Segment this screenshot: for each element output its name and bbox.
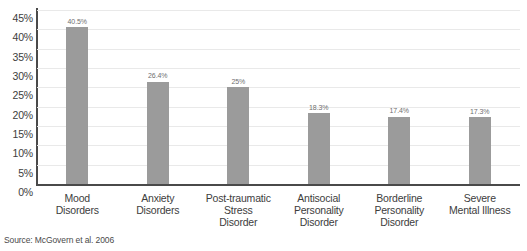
bar[interactable] <box>469 117 491 184</box>
y-tick-label: 15% <box>13 129 33 140</box>
category-label-line: Personality <box>359 204 440 216</box>
y-tick-label: 35% <box>13 51 33 62</box>
bar[interactable] <box>147 82 169 184</box>
x-axis-category-label: MoodDisorders <box>37 192 118 216</box>
y-tick-label: 30% <box>13 71 33 82</box>
category-label-line: Post-traumatic <box>198 192 279 204</box>
x-axis-line <box>36 184 520 186</box>
y-axis-tick-labels: 0%5%10%15%20%25%30%35%40%45% <box>0 18 33 184</box>
category-label-line: Severe <box>440 192 521 204</box>
bar-slot: 26.4% <box>118 10 199 184</box>
bar-slot: 17.3% <box>440 10 521 184</box>
y-tick-label: 20% <box>13 109 33 120</box>
bar-value-label: 25% <box>231 78 245 85</box>
category-label-line: Mood <box>37 192 118 204</box>
y-tick-label: 40% <box>13 32 33 43</box>
category-label-line: Anxiety <box>118 192 199 204</box>
bar-slot: 25% <box>198 10 279 184</box>
x-axis-category-labels: MoodDisordersAnxietyDisordersPost-trauma… <box>37 192 520 238</box>
x-axis-category-label: Post-traumaticStressDisorder <box>198 192 279 229</box>
y-tick-label: 10% <box>13 148 33 159</box>
bar-slot: 18.3% <box>279 10 360 184</box>
bar-value-label: 17.3% <box>470 108 489 115</box>
x-axis-category-label: AntisocialPersonalityDisorder <box>279 192 360 229</box>
category-label-line: Antisocial <box>279 192 360 204</box>
bar-value-label: 26.4% <box>148 72 167 79</box>
bar-slot: 40.5% <box>37 10 118 184</box>
bar-slot: 17.4% <box>359 10 440 184</box>
category-label-line: Disorders <box>118 204 199 216</box>
bar[interactable] <box>66 27 88 184</box>
bar[interactable] <box>388 117 410 184</box>
category-label-line: Disorder <box>279 216 360 228</box>
category-label-line: Stress <box>198 204 279 216</box>
x-axis-category-label: SevereMental Illness <box>440 192 521 216</box>
bar-value-label: 18.3% <box>309 104 328 111</box>
category-label-line: Personality <box>279 204 360 216</box>
y-tick-label: 0% <box>18 187 33 198</box>
bar[interactable] <box>227 87 249 184</box>
category-label-line: Disorder <box>198 216 279 228</box>
y-tick-label: 25% <box>13 90 33 101</box>
bar-series: 40.5%26.4%25%18.3%17.4%17.3% <box>37 10 520 184</box>
source-note: Source: McGovern et al. 2006 <box>4 236 114 245</box>
category-label-line: Borderline <box>359 192 440 204</box>
x-axis-category-label: BorderlinePersonalityDisorder <box>359 192 440 229</box>
bar[interactable] <box>308 113 330 184</box>
category-label-line: Disorders <box>37 204 118 216</box>
bar-chart-figure: 0%5%10%15%20%25%30%35%40%45% 40.5%26.4%2… <box>0 0 527 251</box>
bar-value-label: 40.5% <box>68 18 87 25</box>
category-label-line: Disorder <box>359 216 440 228</box>
y-tick-label: 5% <box>18 167 33 178</box>
x-axis-category-label: AnxietyDisorders <box>118 192 199 216</box>
y-tick-label: 45% <box>13 13 33 24</box>
bar-value-label: 17.4% <box>390 107 409 114</box>
category-label-line: Mental Illness <box>440 204 521 216</box>
